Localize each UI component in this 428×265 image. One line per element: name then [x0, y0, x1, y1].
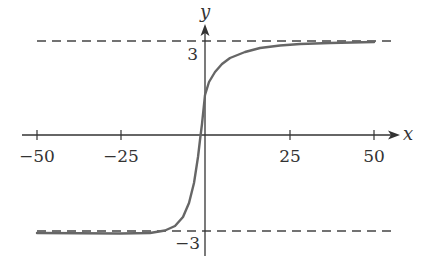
x-tick-label: −25: [103, 146, 139, 166]
x-axis-label: x: [403, 123, 413, 144]
y-axis: y 3 −3: [175, 1, 211, 256]
y-tick-label: 3: [187, 44, 198, 64]
x-tick-label: 25: [279, 146, 301, 166]
y-tick-label: −3: [175, 233, 200, 253]
x-tick-label: 50: [363, 146, 385, 166]
x-tick-label: −50: [19, 146, 55, 166]
x-axis: −50 −25 25 50 x: [19, 123, 413, 166]
y-axis-label: y: [199, 1, 211, 22]
asymptote-lines: [37, 41, 392, 231]
chart-plot: −50 −25 25 50 x y 3 −3: [0, 0, 428, 265]
